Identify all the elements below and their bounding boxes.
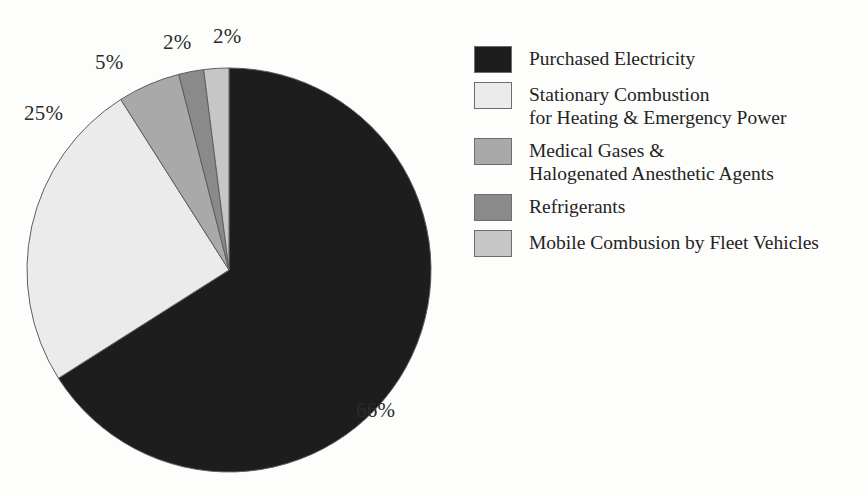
legend-item-label: Stationary Combustion for Heating & Emer… bbox=[529, 82, 786, 129]
pie-chart-area: 66%25%5%2%2% bbox=[0, 0, 470, 495]
legend-item-label: Mobile Combusion by Fleet Vehicles bbox=[529, 230, 819, 254]
legend-item: Refrigerants bbox=[474, 194, 864, 221]
legend-item-label: Purchased Electricity bbox=[529, 46, 695, 70]
pie-percentage-label: 2% bbox=[213, 26, 242, 47]
legend-color-swatch bbox=[474, 194, 512, 221]
pie-chart-figure: 66%25%5%2%2% Purchased ElectricityStatio… bbox=[0, 0, 868, 495]
pie-percentage-label: 25% bbox=[24, 103, 63, 124]
legend-color-swatch bbox=[474, 46, 512, 73]
legend-color-swatch bbox=[474, 82, 512, 109]
legend-item: Mobile Combusion by Fleet Vehicles bbox=[474, 230, 864, 257]
legend-item-label: Medical Gases & Halogenated Anesthetic A… bbox=[529, 138, 774, 185]
legend-item: Stationary Combustion for Heating & Emer… bbox=[474, 82, 864, 129]
pie-percentage-label: 66% bbox=[356, 400, 395, 421]
legend-color-swatch bbox=[474, 230, 512, 257]
legend-item-label: Refrigerants bbox=[529, 194, 625, 218]
legend-item: Medical Gases & Halogenated Anesthetic A… bbox=[474, 138, 864, 185]
legend-item: Purchased Electricity bbox=[474, 46, 864, 73]
pie-percentage-label: 2% bbox=[163, 32, 192, 53]
legend-color-swatch bbox=[474, 138, 512, 165]
legend: Purchased ElectricityStationary Combusti… bbox=[474, 46, 864, 266]
pie-percentage-label: 5% bbox=[95, 52, 124, 73]
pie-chart-svg bbox=[0, 0, 470, 495]
